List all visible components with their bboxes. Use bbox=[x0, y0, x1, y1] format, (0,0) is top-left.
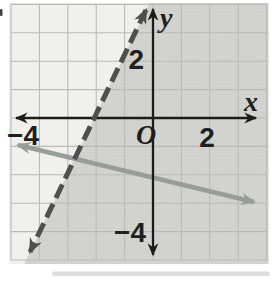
page-bottom-shadow bbox=[52, 272, 270, 277]
x-axis-label: x bbox=[243, 86, 258, 117]
page-edge-artifact bbox=[0, 9, 3, 16]
x-tick-neg4-label: −4 bbox=[7, 120, 39, 151]
x-tick-2-label: 2 bbox=[199, 122, 215, 153]
y-tick-neg4-label: −4 bbox=[114, 217, 146, 248]
y-tick-2-label: 2 bbox=[128, 44, 144, 75]
coordinate-grid-graph: y x 2 −4 O 2 −4 bbox=[0, 0, 272, 281]
origin-label: O bbox=[136, 119, 156, 150]
y-axis-label: y bbox=[157, 2, 173, 33]
scanned-graph-page: y x 2 −4 O 2 −4 bbox=[0, 0, 272, 281]
